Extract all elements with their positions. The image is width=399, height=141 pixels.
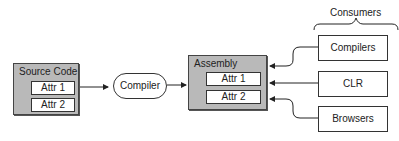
compiler-node: Compiler bbox=[113, 73, 167, 99]
source-code-box: Source Code Attr 1 Attr 2 bbox=[13, 63, 79, 115]
assembly-attr-2: Attr 2 bbox=[206, 90, 261, 104]
consumers-brace bbox=[314, 18, 398, 30]
consumer-compilers: Compilers bbox=[318, 35, 388, 61]
consumer-browsers: Browsers bbox=[318, 106, 388, 132]
consumer-clr: CLR bbox=[318, 71, 388, 97]
arrow-compilers-to-assembly bbox=[270, 47, 318, 66]
source-attr-1: Attr 1 bbox=[31, 81, 75, 95]
assembly-box: Assembly Attr 1 Attr 2 bbox=[188, 55, 267, 110]
source-code-title: Source Code bbox=[19, 66, 77, 77]
arrow-browsers-to-assembly bbox=[270, 99, 318, 118]
consumers-heading: Consumers bbox=[330, 7, 381, 18]
source-attr-2: Attr 2 bbox=[31, 98, 75, 112]
assembly-attr-1: Attr 1 bbox=[206, 72, 261, 86]
assembly-title: Assembly bbox=[194, 58, 237, 69]
